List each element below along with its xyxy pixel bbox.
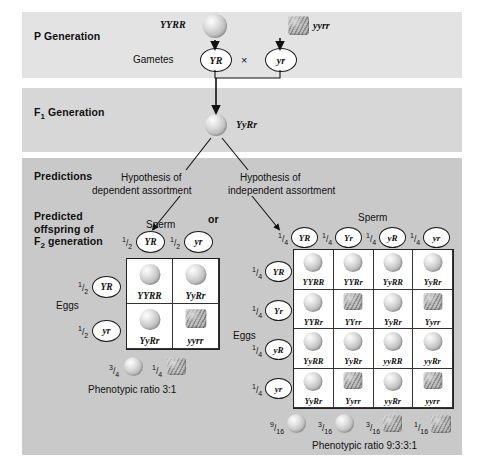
gametes-label: Gametes — [133, 54, 174, 65]
punnett-cell-genotype: yyrr — [413, 396, 452, 406]
dependent-eggs-label: Eggs — [56, 300, 79, 311]
dependent-egg-fraction-1-den: 2 — [84, 332, 88, 339]
independent-egg-gamete-1: Yr — [265, 300, 292, 321]
punnett-cell-genotype: yyRr — [413, 356, 452, 366]
independent-egg-fraction-2: 1/4 — [252, 344, 262, 358]
punnett-cell: YyRR — [294, 329, 334, 369]
independent-summary-seed-0-round-icon — [287, 414, 306, 433]
independent-sperm-gamete-0-allele: YR — [299, 233, 311, 243]
punnett-cell-seed-round-icon — [304, 253, 323, 272]
punnett-cell-genotype: YyRR — [374, 277, 413, 287]
punnett-cell-genotype: YyRr — [413, 277, 452, 287]
independent-sperm-fraction-2-num: 1 — [366, 232, 370, 239]
punnett-cell-seed-round-icon — [344, 332, 363, 351]
punnett-cell: yyRr — [413, 329, 453, 369]
p-parent-right-seed-wrinkled-icon — [288, 16, 309, 35]
punnett-cell-genotype: YyRr — [374, 317, 413, 327]
independent-egg-fraction-3-num: 1 — [252, 383, 256, 390]
punnett-cell-seed-round-icon — [304, 293, 323, 312]
cross-symbol: × — [241, 54, 247, 66]
dependent-egg-fraction-1-num: 1 — [78, 325, 82, 332]
independent-sperm-gamete-0: YR — [291, 227, 318, 248]
dependent-egg-gamete-1-allele: yr — [103, 326, 111, 336]
independent-sperm-fraction-1-den: 4 — [328, 239, 332, 246]
punnett-cell: Yyrr — [413, 290, 453, 330]
independent-sperm-gamete-3: yr — [423, 227, 450, 248]
dependent-egg-fraction-0: 1/2 — [78, 281, 88, 295]
punnett-cell-seed-round-icon — [383, 293, 402, 312]
independent-summary-fraction-2-num: 3 — [366, 421, 370, 428]
punnett-cell-genotype: Yyrr — [413, 317, 452, 327]
independent-egg-fraction-1: 1/4 — [252, 305, 262, 319]
dependent-sperm-fraction-0-den: 2 — [128, 243, 132, 250]
independent-sperm-fraction-3-num: 1 — [410, 232, 414, 239]
independent-sperm-fraction-0-den: 4 — [284, 239, 288, 246]
dependent-sperm-fraction-0-num: 1 — [122, 236, 126, 243]
independent-ratio-text: Phenotypic ratio 9:3:3:1 — [312, 440, 417, 451]
dependent-summary-fraction-0: 3/4 — [109, 364, 119, 378]
punnett-cell-genotype: YyRR — [294, 356, 333, 366]
dependent-egg-gamete-0-allele: YR — [100, 282, 112, 292]
independent-sperm-label: Sperm — [358, 212, 387, 223]
dependent-egg-fraction-0-num: 1 — [78, 281, 82, 288]
independent-sperm-fraction-0-num: 1 — [278, 232, 282, 239]
independent-egg-fraction-1-den: 4 — [258, 312, 262, 319]
independent-egg-gamete-3-allele: yr — [275, 384, 283, 394]
independent-egg-gamete-0-allele: YR — [273, 267, 285, 277]
punnett-cell-seed-round-icon — [304, 332, 323, 351]
dependent-summary-fraction-0-den: 4 — [115, 371, 119, 378]
p-gamete-left-allele: YR — [210, 55, 223, 66]
dependent-sperm-gamete-0-allele: YR — [144, 237, 156, 247]
independent-punnett-square: YYRRYYRrYyRRYyRrYYRrYYrrYyRrYyrrYyRRYyRr… — [293, 249, 454, 409]
punnett-cell: YyRr — [334, 329, 374, 369]
punnett-cell: yyrr — [413, 369, 453, 409]
f1-seed-round-icon — [205, 114, 227, 136]
p-gamete-left: YR — [200, 48, 232, 72]
f1-genotype: YyRr — [236, 119, 257, 130]
predicted-offspring-label: Predicted offspring of F2 generation — [34, 210, 130, 253]
dependent-sperm-fraction-1-num: 1 — [170, 236, 174, 243]
punnett-cell: YyRr — [374, 290, 414, 330]
independent-sperm-gamete-1-allele: Yr — [344, 233, 353, 243]
hypothesis-dependent-line2: dependent assortment — [92, 185, 192, 196]
p-gamete-right-allele: yr — [277, 55, 285, 66]
independent-sperm-gamete-3-allele: yr — [433, 233, 441, 243]
independent-sperm-fraction-2-den: 4 — [372, 239, 376, 246]
hypothesis-dependent-line1: Hypothesis of — [121, 172, 182, 183]
dependent-egg-gamete-0: YR — [92, 276, 121, 298]
punnett-cell: yyRR — [374, 329, 414, 369]
predictions-label: Predictions — [34, 170, 92, 183]
punnett-cell-genotype: yyrr — [173, 336, 218, 346]
punnett-cell-seed-round-icon — [139, 309, 160, 330]
independent-summary-fraction-2: 3/16 — [366, 421, 380, 435]
dependent-sperm-fraction-1: 1/2 — [170, 236, 180, 250]
independent-summary-fraction-1: 3/16 — [318, 421, 332, 435]
figure-canvas: P Generation F1 Generation Predictions P… — [0, 0, 477, 473]
p-parent-left-seed-round-icon — [203, 14, 227, 38]
punnett-cell-genotype: YYRR — [127, 291, 172, 301]
independent-summary-seed-2-wrinkled-icon — [383, 415, 402, 432]
punnett-cell-genotype: YyRr — [334, 356, 373, 366]
independent-eggs-label: Eggs — [233, 330, 256, 341]
dependent-summary-seed-round-icon — [124, 357, 143, 376]
predicted-offspring-line3-post: generation — [45, 235, 103, 247]
punnett-cell: YyRr — [127, 304, 173, 349]
independent-sperm-fraction-3-den: 4 — [416, 239, 420, 246]
punnett-cell-genotype: Yyrr — [334, 396, 373, 406]
dependent-summary-fraction-1-num: 1 — [152, 364, 156, 371]
independent-summary-fraction-1-den: 16 — [324, 428, 332, 435]
dependent-summary-fraction-1: 1/4 — [152, 364, 162, 378]
punnett-cell: yyRr — [374, 369, 414, 409]
dependent-sperm-gamete-1: yr — [184, 231, 213, 253]
independent-egg-fraction-2-num: 1 — [252, 344, 256, 351]
independent-egg-gamete-3: yr — [265, 378, 292, 399]
independent-egg-fraction-1-num: 1 — [252, 305, 256, 312]
independent-egg-fraction-2-den: 4 — [258, 351, 262, 358]
independent-sperm-fraction-0: 1/4 — [278, 232, 288, 246]
punnett-cell-genotype: YYRR — [294, 277, 333, 287]
independent-summary-fraction-0-den: 16 — [276, 428, 284, 435]
punnett-cell: yyrr — [173, 304, 219, 349]
dependent-sperm-fraction-1-den: 2 — [176, 243, 180, 250]
independent-sperm-fraction-1: 1/4 — [322, 232, 332, 246]
independent-summary-fraction-3: 1/16 — [414, 421, 428, 435]
